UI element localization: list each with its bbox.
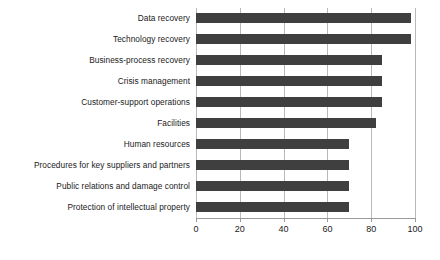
category-label: Customer-support operations: [81, 97, 190, 108]
bar-chart: Data recoveryTechnology recoveryBusiness…: [0, 0, 440, 260]
category-axis: Data recoveryTechnology recoveryBusiness…: [0, 8, 193, 218]
bar: [196, 34, 411, 44]
category-label: Public relations and damage control: [56, 181, 190, 192]
tick-label-0: 0: [181, 224, 211, 235]
tick-mark-80: [371, 219, 372, 222]
plot-area: [196, 8, 415, 218]
tick-label-60: 60: [312, 224, 342, 235]
category-label: Human resources: [124, 139, 190, 150]
bar: [196, 118, 376, 128]
tick-mark-40: [284, 219, 285, 222]
bar: [196, 55, 382, 65]
category-label: Protection of intellectual property: [67, 202, 190, 213]
tick-mark-60: [327, 219, 328, 222]
value-axis-line: [196, 218, 416, 219]
bar: [196, 139, 349, 149]
bar: [196, 202, 349, 212]
bar: [196, 97, 382, 107]
tick-label-100: 100: [400, 224, 430, 235]
category-label: Technology recovery: [113, 34, 190, 45]
tick-mark-0: [196, 219, 197, 222]
category-label: Facilities: [157, 118, 190, 129]
category-label: Data recovery: [138, 13, 190, 24]
bar: [196, 13, 411, 23]
tick-label-40: 40: [269, 224, 299, 235]
bar: [196, 181, 349, 191]
category-label: Business-process recovery: [89, 55, 190, 66]
bar: [196, 160, 349, 170]
category-label: Procedures for key suppliers and partner…: [34, 160, 190, 171]
tick-mark-20: [240, 219, 241, 222]
bar: [196, 76, 382, 86]
tick-label-20: 20: [225, 224, 255, 235]
tick-mark-100: [415, 219, 416, 222]
category-label: Crisis management: [118, 76, 190, 87]
tick-label-80: 80: [356, 224, 386, 235]
gridline-100: [415, 8, 416, 218]
